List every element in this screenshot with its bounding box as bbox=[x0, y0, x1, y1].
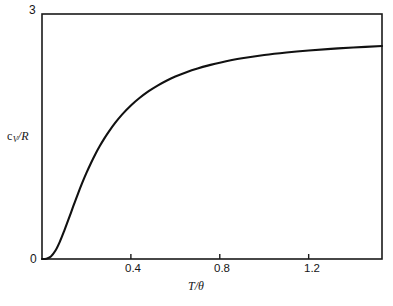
x-axis-title: T/θ bbox=[188, 280, 204, 292]
plot-frame-border bbox=[42, 14, 382, 259]
y-axis-max-label: 3 bbox=[29, 4, 36, 16]
x-tick-label-0.8: 0.8 bbox=[214, 263, 230, 275]
x-tick-label-1.2: 1.2 bbox=[304, 263, 320, 275]
x-tick-label-0.4: 0.4 bbox=[125, 263, 141, 275]
y-axis-min-label: 0 bbox=[30, 253, 37, 265]
y-axis-title: cV/R bbox=[7, 130, 29, 144]
chart-canvas bbox=[0, 0, 393, 306]
plot-frame bbox=[42, 14, 382, 259]
debye-curve bbox=[42, 46, 382, 259]
y-axis-title-rest: /R bbox=[18, 129, 29, 143]
figure-container: 3 0 cV/R 0.4 0.8 1.2 T/θ bbox=[0, 0, 393, 306]
